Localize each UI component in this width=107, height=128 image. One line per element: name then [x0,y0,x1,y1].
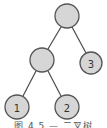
edge-root-left [48,27,61,49]
node-label-2: 2 [64,103,70,114]
figure-caption: 图 4.5 — 二叉树 [0,119,107,128]
node-label-1: 1 [14,103,20,114]
nodes: 3 1 2 [5,4,102,119]
edge-left-n2 [48,71,61,96]
tree-node-internal [30,48,54,72]
edge-left-n1 [23,71,36,96]
tree-node-root [55,4,79,28]
node-label-3: 3 [88,59,94,70]
edge-root-n3 [72,27,86,53]
tree-diagram: 3 1 2 [0,0,107,128]
